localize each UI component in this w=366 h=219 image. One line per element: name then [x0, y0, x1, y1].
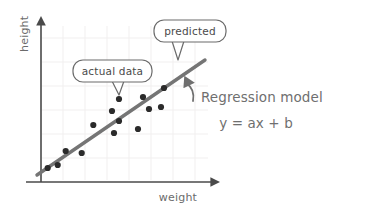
y-axis-label: height — [18, 15, 31, 52]
data-point — [146, 106, 152, 112]
data-point — [79, 150, 85, 156]
x-axis-label: weight — [159, 191, 198, 204]
data-point — [161, 85, 167, 91]
data-point — [111, 130, 117, 136]
annotation-line-2: y = ax + b — [219, 115, 293, 131]
callout-label-predicted: predicted — [164, 25, 216, 37]
regression-diagram: height weight actual data — [0, 0, 366, 219]
data-point — [140, 94, 146, 100]
callout-label-actual: actual data — [82, 65, 144, 77]
data-point — [158, 104, 164, 110]
data-point — [90, 122, 96, 128]
data-point — [109, 108, 115, 114]
callout-tail-predicted — [172, 41, 184, 60]
data-point — [55, 162, 61, 168]
data-point — [135, 126, 141, 132]
callout-predicted: predicted — [154, 20, 226, 60]
data-point — [45, 165, 51, 171]
data-point — [116, 96, 122, 102]
annotation-line-1: Regression model — [201, 89, 323, 105]
data-point — [116, 118, 122, 124]
data-point — [63, 148, 69, 154]
callout-tail-actual — [112, 81, 124, 95]
background-grid — [42, 26, 208, 180]
